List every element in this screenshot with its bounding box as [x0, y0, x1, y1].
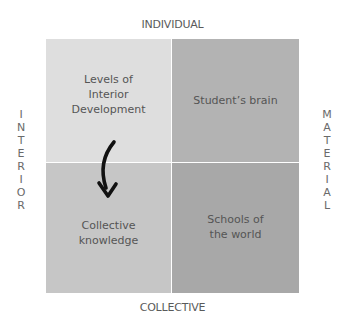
quadrant-label: Student’s brain: [186, 93, 286, 108]
axis-letter: I: [325, 173, 328, 186]
axis-label-individual: INDIVIDUAL: [46, 18, 299, 31]
axis-letter: I: [19, 173, 22, 186]
quadrant-label: Collective knowledge: [59, 218, 159, 248]
axis-letter: M: [322, 108, 332, 121]
axis-letter: A: [323, 186, 331, 199]
axis-letter: O: [17, 186, 26, 199]
axis-letter: R: [323, 160, 331, 173]
quadrant-bottom-left: Collective knowledge: [46, 163, 172, 293]
quadrant-grid: Levels of Interior Development Student’s…: [46, 39, 299, 293]
axis-letter: T: [324, 134, 331, 147]
axis-letter: R: [17, 199, 25, 212]
axis-letter: A: [323, 121, 331, 134]
axis-letter: R: [17, 160, 25, 173]
axis-label-collective: COLLECTIVE: [46, 301, 299, 314]
quadrant-top-left: Levels of Interior Development: [46, 39, 172, 163]
quadrant-label: Levels of Interior Development: [59, 72, 159, 117]
quadrant-top-right: Student’s brain: [172, 39, 299, 163]
quadrant-label: Schools of the world: [186, 212, 286, 242]
axis-letter: T: [18, 134, 25, 147]
axis-label-interior: I N T E R I O R: [14, 108, 28, 212]
axis-letter: N: [17, 121, 25, 134]
axis-letter: E: [18, 147, 25, 160]
quadrant-bottom-right: Schools of the world: [172, 163, 299, 293]
axis-letter: I: [19, 108, 22, 121]
axis-letter: L: [324, 199, 330, 212]
axis-label-material: M A T E R I A L: [320, 108, 334, 212]
axis-letter: E: [324, 147, 331, 160]
